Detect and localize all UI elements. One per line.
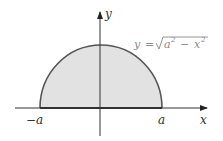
equation-equals: = [145, 38, 154, 51]
equation-a: a [164, 38, 171, 51]
equation-minus: − [180, 38, 189, 51]
tick-label-neg-a: −a [26, 113, 43, 127]
equation-x: x [194, 38, 201, 51]
y-axis-label: y [104, 7, 112, 21]
equation-x-exponent: 2 [200, 36, 206, 44]
semicircle-region [40, 45, 162, 108]
tick-label-a: a [158, 113, 165, 127]
equation-label: y = a 2 − x 2 [133, 36, 208, 51]
equation-lhs: y [133, 38, 141, 51]
equation-a-exponent: 2 [170, 36, 176, 44]
semicircle-diagram: y x −a a y = a 2 − x 2 [0, 0, 223, 141]
x-axis-label: x [200, 113, 207, 127]
